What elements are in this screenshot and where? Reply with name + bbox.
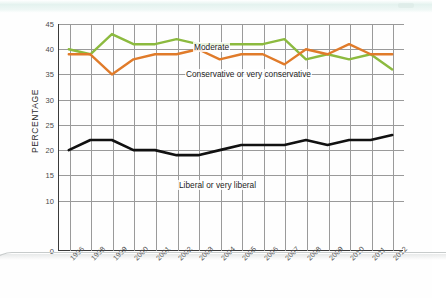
page-top-band [0,0,432,13]
page-corner-edge [0,252,446,298]
y-axis-tick-label: 10 [45,196,54,205]
series-lines [58,24,403,251]
y-axis-tick-label: 45 [45,20,54,29]
y-axis-tick-label: 40 [45,45,54,54]
y-axis-tick-label: 35 [45,70,54,79]
y-axis-tick-label: 15 [45,171,54,180]
y-axis-title-wrap: PERCENTAGE [8,24,32,251]
y-axis-tick-label: 25 [45,120,54,129]
annotation-liberal: Liberal or very liberal [178,180,257,190]
y-axis-tick-label: 30 [45,95,54,104]
y-axis-tick-labels: 01015202530354045 [36,24,54,251]
series-line-liberal [69,135,392,155]
series-line-moderate [69,34,392,69]
annotation-moderate: Moderate [193,42,230,52]
annotation-conservative: Conservative or very conservative [185,69,312,79]
line-chart: ModerateConservative or very conservativ… [58,24,403,251]
page-scan-artifact [398,3,414,8]
y-axis-tick-label: 20 [45,146,54,155]
